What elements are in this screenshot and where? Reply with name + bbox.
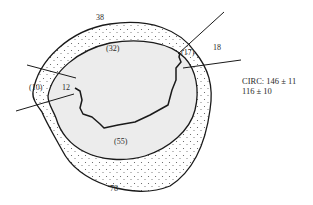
label-right-outer: 18 <box>213 44 221 52</box>
wall-thickness-diagram: 38 (32) 18 (17) (10) 12 (55) 78 CIRC: 14… <box>0 0 313 205</box>
label-bottom-outer: 78 <box>110 185 118 193</box>
label-top-outer: 38 <box>96 14 104 22</box>
label-top-inner: (32) <box>106 45 119 53</box>
label-left-inner: 12 <box>62 84 70 92</box>
circumference-block: CIRC: 146 ± 11 116 ± 10 <box>242 76 296 96</box>
label-bottom-inner: (55) <box>114 138 127 146</box>
circ-line-2: 116 ± 10 <box>242 86 296 96</box>
label-right-inner: (17) <box>181 49 194 57</box>
circ-line-1: CIRC: 146 ± 11 <box>242 76 296 86</box>
cross-section-drawing <box>0 0 313 205</box>
label-left-outer: (10) <box>29 84 42 92</box>
